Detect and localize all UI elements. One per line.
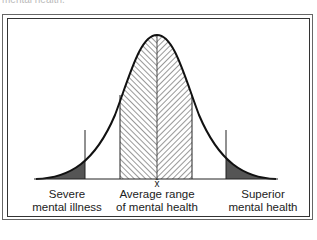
severe-mental-illness-label: Severe mental illness xyxy=(22,188,112,214)
superior-region xyxy=(226,30,276,179)
label-line: mental illness xyxy=(22,201,112,214)
severe-region xyxy=(36,30,85,179)
label-line: Superior xyxy=(218,188,308,201)
label-line: Severe xyxy=(22,188,112,201)
superior-mental-health-label: Superior mental health xyxy=(218,188,308,214)
label-line: Average range xyxy=(107,188,207,201)
average-range-label: Average range of mental health xyxy=(107,188,207,214)
label-line: mental health xyxy=(218,201,308,214)
label-line: of mental health xyxy=(107,201,207,214)
